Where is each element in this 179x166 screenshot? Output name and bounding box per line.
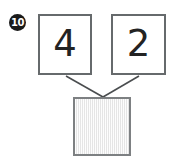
number-bond-worksheet-problem: 10 4 2: [0, 0, 179, 166]
connector-line-left: [66, 76, 103, 97]
sum-answer-box[interactable]: [73, 97, 131, 156]
addend-box-2: 2: [111, 14, 166, 75]
connector-line-right: [103, 76, 139, 97]
addend-box-1: 4: [38, 14, 92, 75]
addend-value-1: 4: [53, 25, 77, 62]
addend-value-2: 2: [127, 25, 151, 62]
